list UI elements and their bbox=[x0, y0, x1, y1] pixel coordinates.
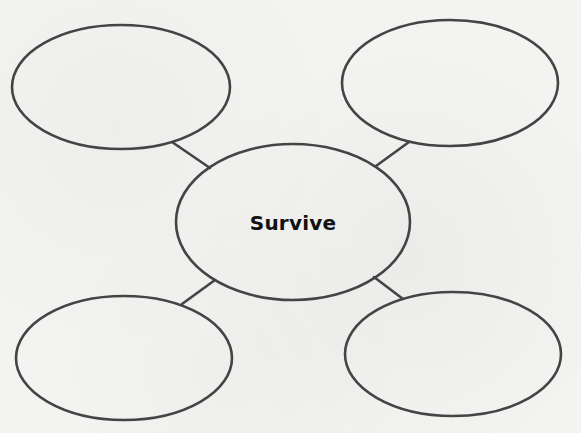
connector-top-left bbox=[172, 142, 210, 168]
connector-bottom-right bbox=[374, 277, 403, 299]
bubble-map-diagram: Survive bbox=[0, 0, 581, 433]
bubble-top-left bbox=[12, 25, 230, 149]
bubble-top-right bbox=[342, 20, 558, 146]
bubble-bottom-right bbox=[345, 292, 561, 416]
center-bubble-label: Survive bbox=[250, 211, 336, 235]
connector-top-right bbox=[376, 142, 409, 166]
connector-bottom-left bbox=[182, 280, 215, 304]
bubble-bottom-left bbox=[16, 296, 232, 420]
